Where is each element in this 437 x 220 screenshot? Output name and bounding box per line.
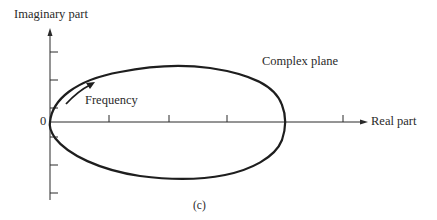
real-axis-label: Real part xyxy=(371,114,416,129)
origin-label: 0 xyxy=(40,114,46,129)
figure-caption: (c) xyxy=(193,199,206,211)
imaginary-axis-label: Imaginary part xyxy=(14,7,88,22)
plot-canvas xyxy=(0,0,437,220)
real-axis-ticks xyxy=(109,115,343,122)
imaginary-axis-arrow-icon xyxy=(48,28,53,36)
frequency-label: Frequency xyxy=(85,93,138,108)
complex-plane-diagram: Imaginary part Real part 0 Complex plane… xyxy=(0,0,437,220)
real-axis-arrow-icon xyxy=(360,120,368,125)
complex-plane-label: Complex plane xyxy=(262,54,338,69)
